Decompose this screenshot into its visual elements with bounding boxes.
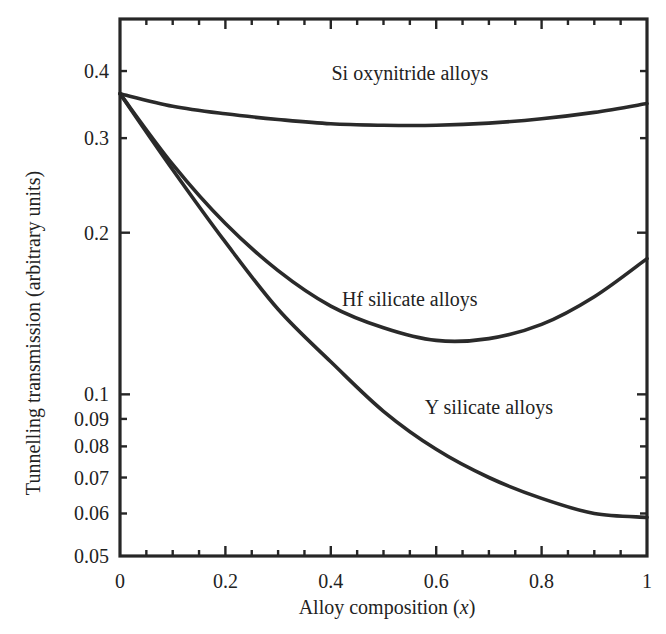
x-tick-label: 0.2 xyxy=(213,570,238,592)
label-y-silicate-alloys: Y silicate alloys xyxy=(425,396,553,419)
y-tick-label: 0.3 xyxy=(84,127,109,149)
x-tick-label: 0.8 xyxy=(529,570,554,592)
y-tick-label: 0.06 xyxy=(74,502,109,524)
x-tick-label: 0.6 xyxy=(424,570,449,592)
y-tick-label: 0.09 xyxy=(74,408,109,430)
label-si-oxynitride-alloys: Si oxynitride alloys xyxy=(332,62,489,85)
series-labels: Si oxynitride alloysHf silicate alloysY … xyxy=(332,62,554,419)
tick-labels: 00.20.40.60.810.40.30.20.10.090.080.070.… xyxy=(74,60,652,592)
y-tick-label: 0.2 xyxy=(84,222,109,244)
y-tick-label: 0.08 xyxy=(74,435,109,457)
y-tick-label: 0.1 xyxy=(84,383,109,405)
label-hf-silicate-alloys: Hf silicate alloys xyxy=(342,288,478,311)
y-axis-title: Tunnelling transmission (arbitrary units… xyxy=(22,171,45,495)
y-tick-label: 0.4 xyxy=(84,60,109,82)
y-tick-label: 0.07 xyxy=(74,467,109,489)
x-axis-title: Alloy composition (x) xyxy=(299,596,476,619)
curve-si-oxynitride-alloys xyxy=(120,94,647,126)
tunnelling-transmission-chart: 00.20.40.60.810.40.30.20.10.090.080.070.… xyxy=(0,0,666,634)
x-tick-label: 0 xyxy=(115,570,125,592)
y-tick-label: 0.05 xyxy=(74,545,109,567)
x-tick-label: 0.4 xyxy=(318,570,343,592)
x-tick-label: 1 xyxy=(642,570,652,592)
